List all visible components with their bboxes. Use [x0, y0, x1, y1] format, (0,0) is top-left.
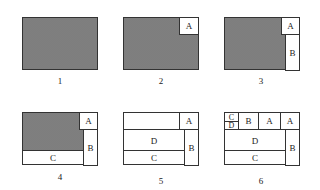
- panel-2: A: [123, 17, 199, 70]
- region-a-middle: A: [258, 112, 281, 130]
- panel-4: A B C: [22, 112, 98, 165]
- shaded-area: [23, 113, 83, 151]
- panel-5: A B D C: [123, 112, 199, 165]
- region-b: B: [83, 129, 98, 166]
- panel-number-1: 1: [50, 76, 70, 86]
- shaded-area: [225, 18, 285, 69]
- panel-number-2: 2: [151, 76, 171, 86]
- region-b: B: [184, 129, 199, 166]
- region-d: D: [123, 129, 185, 152]
- region-a: A: [281, 17, 300, 35]
- region-a: A: [280, 112, 300, 130]
- region-b: B: [285, 34, 300, 71]
- region-d: D: [224, 129, 286, 152]
- panel-number-3: 3: [251, 76, 271, 86]
- panel-1: [22, 17, 98, 70]
- shaded-area: [23, 18, 97, 69]
- region-top-blank: [123, 112, 181, 130]
- region-c: C: [224, 150, 286, 165]
- panel-number-6: 6: [251, 176, 271, 186]
- region-a: A: [179, 112, 199, 130]
- region-c: C: [123, 150, 185, 165]
- region-a: A: [79, 112, 98, 130]
- panel-6: C D B A A B D C: [224, 112, 300, 165]
- region-b: B: [285, 129, 300, 166]
- region-a: A: [179, 17, 199, 35]
- panel-number-5: 5: [151, 176, 171, 186]
- region-b-top: B: [238, 112, 259, 130]
- panel-number-4: 4: [50, 172, 70, 182]
- panel-3: A B: [224, 17, 300, 70]
- region-c: C: [22, 150, 84, 165]
